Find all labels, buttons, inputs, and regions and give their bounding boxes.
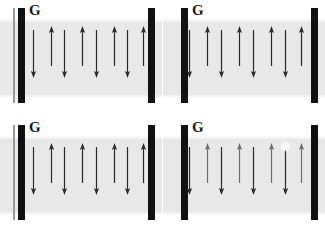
panel-bottom-left: G bbox=[0, 117, 162, 233]
spin-up-arrow-icon bbox=[297, 143, 306, 183]
spin-down-arrow-icon bbox=[281, 147, 290, 195]
guide-line bbox=[13, 8, 15, 103]
spin-up-arrow-icon bbox=[297, 26, 306, 66]
spin-down-arrow-icon bbox=[281, 30, 290, 78]
guide-line bbox=[13, 125, 15, 220]
spin-up-arrow-icon bbox=[203, 26, 212, 66]
spin-down-arrow-icon bbox=[217, 30, 226, 78]
spin-down-arrow-icon bbox=[60, 30, 69, 78]
spin-down-arrow-icon bbox=[123, 147, 132, 195]
spin-up-arrow-icon bbox=[47, 143, 56, 183]
panel-top-right: G bbox=[163, 0, 325, 116]
spin-up-arrow-icon bbox=[267, 26, 276, 66]
spin-down-arrow-icon bbox=[92, 30, 101, 78]
spin-up-arrow-icon bbox=[203, 143, 212, 183]
light-spot-artifact bbox=[282, 143, 289, 150]
spin-up-arrow-icon bbox=[139, 143, 148, 183]
figure-canvas: GGGG bbox=[0, 0, 325, 233]
spin-up-arrow-icon bbox=[78, 26, 87, 66]
spin-up-arrow-icon bbox=[267, 143, 276, 183]
spin-down-arrow-icon bbox=[29, 147, 38, 195]
spin-down-arrow-icon bbox=[60, 147, 69, 195]
spin-down-arrow-icon bbox=[249, 30, 258, 78]
panel-bottom-right: G bbox=[163, 117, 325, 233]
panel-label-g: G bbox=[29, 3, 41, 18]
right-electrode-bar bbox=[148, 125, 155, 220]
spin-down-arrow-icon bbox=[92, 147, 101, 195]
spin-down-arrow-icon bbox=[185, 30, 194, 78]
spin-up-arrow-icon bbox=[47, 26, 56, 66]
left-electrode-bar bbox=[18, 125, 25, 220]
spin-up-arrow-icon bbox=[110, 143, 119, 183]
right-electrode-bar bbox=[311, 8, 318, 103]
spin-down-arrow-icon bbox=[249, 147, 258, 195]
spin-up-arrow-icon bbox=[235, 143, 244, 183]
panel-top-left: G bbox=[0, 0, 162, 116]
right-electrode-bar bbox=[311, 125, 318, 220]
panel-label-g: G bbox=[29, 120, 41, 135]
panel-label-g: G bbox=[192, 3, 204, 18]
spin-down-arrow-icon bbox=[123, 30, 132, 78]
spin-up-arrow-icon bbox=[139, 26, 148, 66]
panel-label-g: G bbox=[192, 120, 204, 135]
spin-down-arrow-icon bbox=[217, 147, 226, 195]
spin-down-arrow-icon bbox=[185, 147, 194, 195]
left-electrode-bar bbox=[18, 8, 25, 103]
spin-up-arrow-icon bbox=[110, 26, 119, 66]
spin-up-arrow-icon bbox=[78, 143, 87, 183]
spin-up-arrow-icon bbox=[235, 26, 244, 66]
spin-down-arrow-icon bbox=[29, 30, 38, 78]
right-electrode-bar bbox=[148, 8, 155, 103]
